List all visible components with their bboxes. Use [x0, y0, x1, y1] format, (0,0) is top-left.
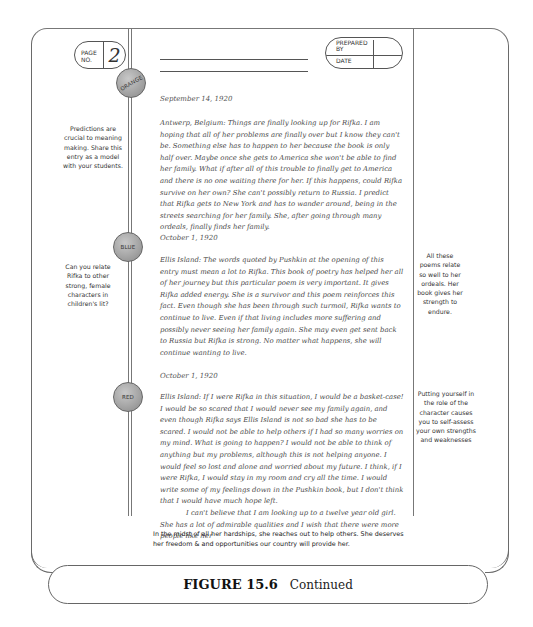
teacher-typed-comment: In the midst of all her hardships, she r…: [153, 529, 415, 549]
prepared-by-label: PREPARED BY: [326, 40, 374, 55]
figure-caption-text: Continued: [290, 578, 353, 592]
entry-2-paragraph: Ellis Island: The words quoted by Pushki…: [160, 255, 404, 359]
page-number-value: 2: [104, 42, 125, 68]
entry-3-date: October 1, 1920: [160, 372, 218, 380]
badge-blue: BLUE: [113, 232, 143, 262]
figure-caption: FIGURE 15.6 Continued: [48, 565, 488, 604]
entry-1-paragraph: Antwerp, Belgium: Things are finally loo…: [160, 118, 404, 234]
prepared-by-row: PREPARED BY: [326, 40, 402, 56]
badge-red-label: RED: [122, 394, 134, 400]
prepared-by-date-box: PREPARED BY DATE: [325, 37, 403, 69]
margin-note-relate-rifka: Can you relate Rifka to other strong, fe…: [60, 262, 116, 308]
frame-corner-bottom-right: [485, 540, 509, 573]
page-number-box: PAGE NO. 2: [74, 41, 126, 69]
badge-blue-label: BLUE: [121, 244, 136, 250]
margin-note-predictions: Predictions are crucial to meaning makin…: [62, 124, 124, 170]
frame-corner-bottom-left: [31, 540, 55, 573]
entry-3-paragraph-1: Ellis Island: If I were Rifka in this si…: [160, 392, 404, 508]
figure-number: FIGURE 15.6: [183, 577, 278, 592]
left-margin-double-rule: [128, 28, 132, 516]
prepared-by-line2: BY: [336, 46, 373, 52]
entry-1-text: Antwerp, Belgium: Things are finally loo…: [160, 118, 404, 234]
badge-red: RED: [113, 382, 143, 412]
entry-3-text: Ellis Island: If I were Rifka in this si…: [160, 392, 404, 543]
page-number-label: PAGE NO.: [75, 42, 104, 68]
entry-2-date: October 1, 1920: [160, 234, 218, 242]
margin-note-self-assess: Putting yourself in the role of the char…: [415, 389, 477, 445]
badge-orange: ORANGE: [116, 68, 146, 98]
badge-orange-label: ORANGE: [119, 74, 143, 92]
entry-2-text: Ellis Island: The words quoted by Pushki…: [160, 255, 404, 359]
entry-1-date: September 14, 1920: [160, 95, 232, 103]
date-row: DATE: [326, 56, 402, 69]
margin-note-poems: All these poems relate so well to her or…: [416, 251, 464, 316]
title-line-1: [160, 59, 308, 60]
page-label-line1: PAGE: [81, 49, 103, 56]
date-label: DATE: [326, 56, 374, 69]
title-line-2: [160, 71, 308, 72]
right-margin-rule: [413, 28, 414, 516]
page-label-line2: NO.: [81, 56, 103, 63]
